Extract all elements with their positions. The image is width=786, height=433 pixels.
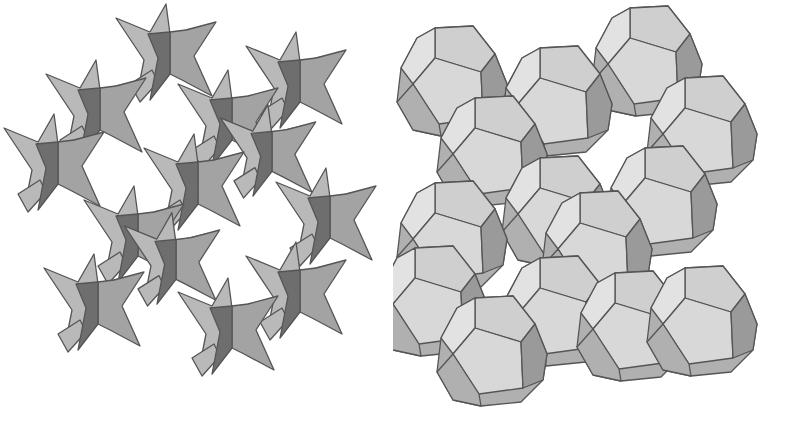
polyhedra-packing-figure (0, 0, 786, 433)
dodecahedron-packing-panel (393, 0, 786, 433)
star-packing-panel (0, 0, 393, 433)
dodecahedron-unit (647, 266, 757, 376)
star-packing-illustration (0, 0, 393, 433)
dodecahedron-packing-illustration (393, 0, 786, 433)
star-unit (246, 242, 346, 340)
